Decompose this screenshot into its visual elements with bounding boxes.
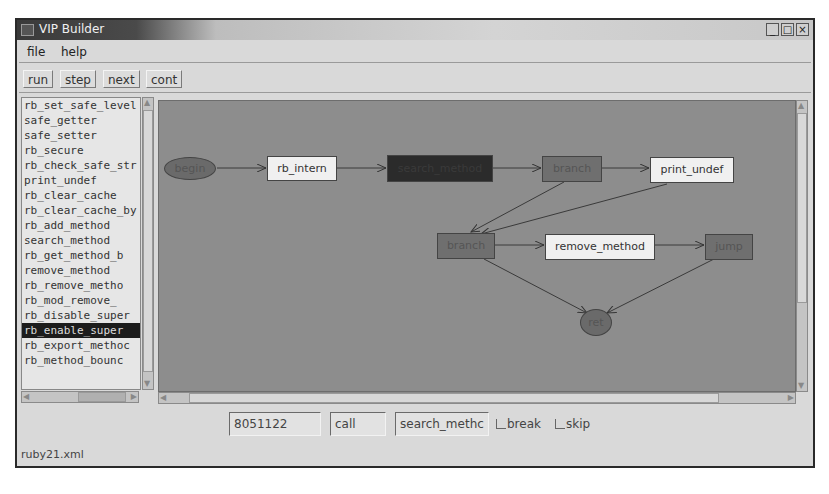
graph-node-branch[interactable]: branch: [542, 156, 602, 182]
address-field[interactable]: 8051122: [229, 412, 321, 436]
vip-builder-window: VIP Builder _ □ × file help run step nex…: [15, 18, 815, 468]
close-button[interactable]: ×: [796, 23, 809, 36]
list-item[interactable]: search_method: [22, 233, 140, 248]
canvas-horizontal-scrollbar[interactable]: ◀ ▶: [158, 392, 796, 404]
window-menu-icon[interactable]: [21, 24, 34, 36]
canvas-vertical-scrollbar[interactable]: ▲ ▼: [796, 100, 808, 392]
menu-bar: file help: [19, 42, 811, 63]
list-item[interactable]: rb_secure: [22, 143, 140, 158]
scroll-up-icon[interactable]: ▲: [798, 101, 804, 111]
function-name-field[interactable]: search_methc: [395, 412, 489, 436]
toolbar: run step next cont: [19, 66, 811, 93]
graph-node-remove-method[interactable]: remove_method: [545, 234, 655, 260]
status-filename: ruby21.xml: [21, 448, 84, 461]
next-button[interactable]: next: [103, 70, 140, 88]
break-checkbox[interactable]: break: [496, 417, 541, 431]
scroll-left-icon[interactable]: ◀: [23, 392, 29, 402]
graph-canvas[interactable]: begin rb_intern search_method branch pri…: [158, 100, 796, 392]
graph-node-begin[interactable]: begin: [164, 157, 216, 180]
list-vertical-scrollbar[interactable]: ▲ ▼: [142, 97, 154, 390]
graph-node-branch-2[interactable]: branch: [437, 233, 495, 259]
list-item[interactable]: rb_disable_super: [22, 308, 140, 323]
graph-node-search-method[interactable]: search_method: [387, 155, 493, 182]
scroll-right-icon[interactable]: ▶: [131, 392, 137, 402]
scroll-up-icon[interactable]: ▲: [144, 98, 150, 108]
scroll-left-icon[interactable]: ◀: [160, 393, 166, 403]
list-item[interactable]: rb_clear_cache: [22, 188, 140, 203]
skip-label: skip: [566, 417, 590, 431]
list-item[interactable]: rb_export_methoc: [22, 338, 140, 353]
instruction-type-field[interactable]: call: [330, 412, 386, 436]
menu-file[interactable]: file: [27, 45, 45, 59]
graph-node-jump[interactable]: jump: [705, 234, 753, 260]
checkbox-icon[interactable]: [496, 419, 506, 429]
maximize-button[interactable]: □: [781, 23, 794, 36]
list-item[interactable]: rb_get_method_b: [22, 248, 140, 263]
list-item[interactable]: safe_setter: [22, 128, 140, 143]
list-hscroll-thumb[interactable]: [78, 392, 126, 402]
menu-help[interactable]: help: [61, 45, 87, 59]
graph-node-print-undef[interactable]: print_undef: [650, 157, 734, 183]
title-bar[interactable]: VIP Builder _ □ ×: [17, 20, 813, 40]
list-item[interactable]: rb_add_method: [22, 218, 140, 233]
list-item[interactable]: rb_check_safe_str: [22, 158, 140, 173]
scroll-right-icon[interactable]: ▶: [788, 393, 794, 403]
skip-checkbox[interactable]: skip: [555, 417, 590, 431]
break-label: break: [507, 417, 541, 431]
canvas-hscroll-thumb[interactable]: [189, 393, 719, 403]
list-item[interactable]: rb_remove_metho: [22, 278, 140, 293]
list-item[interactable]: rb_mod_remove_: [22, 293, 140, 308]
graph-node-ret[interactable]: ret: [580, 309, 612, 336]
list-item[interactable]: rb_clear_cache_by: [22, 203, 140, 218]
checkbox-icon[interactable]: [555, 419, 565, 429]
list-vscroll-thumb[interactable]: [143, 110, 153, 372]
window-title: VIP Builder: [39, 22, 104, 36]
scroll-down-icon[interactable]: ▼: [798, 381, 804, 391]
list-item-selected[interactable]: rb_enable_super: [22, 323, 140, 338]
list-horizontal-scrollbar[interactable]: ◀ ▶: [21, 391, 139, 403]
canvas-vscroll-thumb[interactable]: [797, 113, 807, 303]
step-button[interactable]: step: [60, 70, 96, 88]
cont-button[interactable]: cont: [146, 70, 182, 88]
list-item[interactable]: rb_method_bounc: [22, 353, 140, 368]
list-item[interactable]: print_undef: [22, 173, 140, 188]
run-button[interactable]: run: [23, 70, 53, 88]
list-item[interactable]: remove_method: [22, 263, 140, 278]
list-item[interactable]: rb_set_safe_level: [22, 98, 140, 113]
list-item[interactable]: safe_getter: [22, 113, 140, 128]
function-list[interactable]: rb_set_safe_level safe_getter safe_sette…: [21, 97, 141, 390]
graph-node-rb-intern[interactable]: rb_intern: [267, 156, 337, 181]
minimize-button[interactable]: _: [766, 23, 779, 36]
scroll-down-icon[interactable]: ▼: [144, 379, 150, 389]
